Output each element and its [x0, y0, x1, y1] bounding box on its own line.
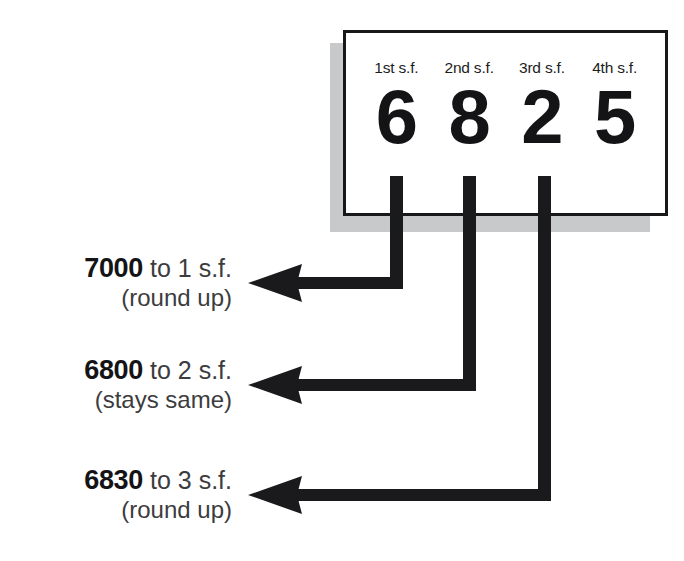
result-2-value: 6800 — [84, 355, 143, 385]
digit-4: 5 — [578, 79, 651, 155]
result-3-note: (round up) — [0, 495, 232, 525]
result-1-primary: 7000 to 1 s.f. — [0, 253, 232, 283]
result-3-sf: 6830 to 3 s.f. (round up) — [0, 465, 232, 525]
result-1-sf: 7000 to 1 s.f. (round up) — [0, 253, 232, 313]
result-2-sf: 6800 to 2 s.f. (stays same) — [0, 355, 232, 415]
result-2-note: (stays same) — [0, 385, 232, 415]
significant-figures-card: 1st s.f. 2nd s.f. 3rd s.f. 4th s.f. 6 8 … — [343, 30, 668, 216]
digit-3: 2 — [506, 79, 579, 155]
result-1-value: 7000 — [84, 253, 143, 283]
digit-1: 6 — [360, 79, 433, 155]
result-3-suffix: to 3 s.f. — [150, 466, 232, 494]
result-1-suffix: to 1 s.f. — [150, 254, 232, 282]
result-2-suffix: to 2 s.f. — [150, 356, 232, 384]
number-digits: 6 8 2 5 — [346, 79, 665, 155]
result-1-note: (round up) — [0, 283, 232, 313]
digit-2: 8 — [433, 79, 506, 155]
result-3-primary: 6830 to 3 s.f. — [0, 465, 232, 495]
result-3-value: 6830 — [84, 465, 143, 495]
result-2-primary: 6800 to 2 s.f. — [0, 355, 232, 385]
diagram-canvas: 1st s.f. 2nd s.f. 3rd s.f. 4th s.f. 6 8 … — [0, 0, 684, 561]
